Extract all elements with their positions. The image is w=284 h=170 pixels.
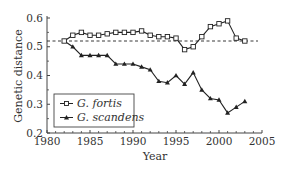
open-square-marker-icon bbox=[208, 24, 212, 28]
filled-triangle-marker-icon bbox=[234, 105, 239, 109]
open-square-marker-icon bbox=[157, 34, 161, 38]
x-tick-label: 1990 bbox=[120, 135, 147, 147]
open-square-marker-icon bbox=[148, 33, 152, 37]
open-square-marker-icon bbox=[165, 34, 169, 38]
legend-label-scandens: G. scandens bbox=[77, 111, 144, 124]
y-axis-title: Genetic distance bbox=[12, 29, 25, 122]
filled-triangle-marker-icon bbox=[199, 87, 204, 91]
legend: G. fortis G. scandens bbox=[54, 94, 144, 127]
open-square-marker-icon bbox=[217, 22, 221, 26]
x-tick-label: 2005 bbox=[249, 135, 276, 147]
y-tick-label: 0.5 bbox=[26, 40, 43, 52]
open-square-marker-icon bbox=[200, 34, 204, 38]
legend-label-fortis: G. fortis bbox=[77, 97, 122, 110]
x-axis: 198019851990199520002005 bbox=[34, 130, 276, 147]
open-square-marker-icon bbox=[234, 36, 238, 40]
filled-triangle-marker-icon bbox=[70, 44, 75, 48]
open-square-marker-icon bbox=[88, 33, 92, 37]
y-tick-label: 0.4 bbox=[26, 69, 43, 81]
open-square-marker-icon bbox=[191, 45, 195, 49]
open-square-marker-icon bbox=[122, 30, 126, 34]
open-square-marker-icon bbox=[139, 29, 143, 33]
open-square-marker-icon bbox=[79, 30, 83, 34]
series-g--fortis bbox=[62, 19, 247, 52]
y-tick-label: 0.3 bbox=[26, 98, 43, 110]
open-square-marker-icon bbox=[65, 102, 69, 106]
x-tick-label: 1980 bbox=[34, 135, 61, 147]
open-square-marker-icon bbox=[174, 36, 178, 40]
x-tick-label: 2000 bbox=[206, 135, 233, 147]
x-axis-title: Year bbox=[142, 150, 168, 163]
open-square-marker-icon bbox=[114, 30, 118, 34]
y-tick-label: 0.6 bbox=[26, 12, 43, 24]
x-tick-label: 1985 bbox=[77, 135, 104, 147]
open-square-marker-icon bbox=[182, 47, 186, 51]
open-square-marker-icon bbox=[243, 39, 247, 43]
open-square-marker-icon bbox=[96, 33, 100, 37]
filled-triangle-marker-icon bbox=[242, 99, 247, 103]
open-square-marker-icon bbox=[71, 33, 75, 37]
open-square-marker-icon bbox=[225, 19, 229, 23]
filled-triangle-marker-icon bbox=[191, 70, 196, 74]
genetic-distance-chart: 0.20.30.40.50.6 198019851990199520002005… bbox=[0, 0, 284, 170]
y-axis: 0.20.30.40.50.6 bbox=[26, 12, 50, 139]
filled-triangle-marker-icon bbox=[174, 73, 179, 77]
x-tick-label: 1995 bbox=[163, 135, 190, 147]
open-square-marker-icon bbox=[62, 39, 66, 43]
open-square-marker-icon bbox=[131, 30, 135, 34]
open-square-marker-icon bbox=[105, 32, 109, 36]
